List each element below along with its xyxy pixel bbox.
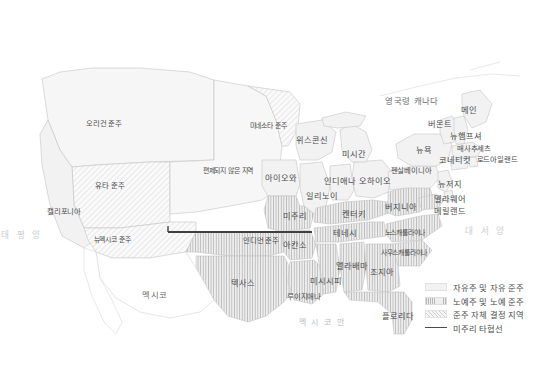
shape-arkansas (282, 230, 316, 260)
shape-north-carolina (386, 214, 442, 242)
shape-texas (196, 256, 294, 322)
shape-new-hampshire (454, 116, 468, 144)
shape-michigan (340, 124, 372, 162)
shape-new-jersey (438, 170, 452, 192)
shape-ohio (352, 160, 392, 198)
legend-compromise-line[interactable]: 미주리 타협선 (425, 322, 549, 335)
legend-free-states-label: 자유주 및 자유 준주 (453, 281, 524, 293)
shape-indiana (330, 164, 354, 200)
shape-tennessee (314, 222, 386, 242)
shape-canada (380, 62, 520, 96)
shape-iowa (262, 160, 300, 196)
legend-popular-sovereignty[interactable]: 준주 자체 결정 지역 (425, 308, 549, 321)
legend-compromise-line-swatch (425, 327, 447, 328)
map-canvas: 오리건 준주유타 준주캘리포니아뉴멕시코 준주미네소타 준주편제되지 않은 지역… (0, 0, 552, 390)
shape-oregon-territory (42, 68, 214, 167)
map-legend: 자유주 및 자유 준주노예주 및 노예 준주준주 자체 결정 지역미주리 타협선 (425, 281, 549, 335)
legend-compromise-line-label: 미주리 타협선 (453, 322, 503, 334)
shape-alabama (340, 242, 366, 292)
legend-popular-sovereignty-label: 준주 자체 결정 지역 (453, 308, 524, 320)
shape-maine (462, 90, 492, 128)
legend-slave-states-swatch (425, 297, 447, 305)
legend-slave-states-label: 노예주 및 노예 준주 (453, 295, 524, 307)
shape-delaware (444, 190, 454, 202)
legend-popular-sovereignty-swatch (425, 310, 447, 318)
shape-rhode-island (468, 157, 478, 167)
legend-slave-states[interactable]: 노예주 및 노예 준주 (425, 295, 549, 308)
shape-pennsylvania (388, 166, 440, 190)
shape-michigan-up (322, 112, 366, 128)
shape-connecticut (450, 158, 468, 170)
shape-florida (344, 292, 412, 334)
shape-indian-territory (186, 232, 284, 256)
legend-free-states-swatch (425, 283, 447, 291)
legend-free-states[interactable]: 자유주 및 자유 준주 (425, 281, 549, 294)
shape-utah-territory (72, 162, 170, 228)
shape-massachusetts (452, 142, 482, 158)
